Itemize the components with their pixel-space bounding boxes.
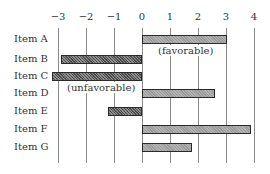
category-label: Item E xyxy=(14,106,48,116)
x-tick-label: 4 xyxy=(251,11,257,22)
x-tick-label: −2 xyxy=(79,11,94,22)
bar-item-c xyxy=(52,72,142,81)
gridline xyxy=(254,28,255,163)
category-label: Item D xyxy=(14,88,49,98)
gridline xyxy=(226,28,227,163)
x-tick-label: −1 xyxy=(107,11,122,22)
bar-chart: −3−2−101234 Item AItem BItem CItem DItem… xyxy=(0,0,270,174)
gridline xyxy=(114,28,115,163)
unfavorable-annotation: (unfavorable) xyxy=(66,82,136,93)
category-label: Item F xyxy=(14,124,48,134)
x-tick-label: −3 xyxy=(51,11,66,22)
gridline xyxy=(86,28,87,163)
bar-item-b xyxy=(61,55,142,64)
x-tick-label: 2 xyxy=(195,11,201,22)
bar-item-a xyxy=(142,35,227,44)
category-label: Item B xyxy=(14,54,48,64)
bar-item-d xyxy=(142,89,215,98)
category-label: Item G xyxy=(14,142,49,152)
gridline xyxy=(58,28,59,163)
bar-item-g xyxy=(142,143,192,152)
x-tick-label: 1 xyxy=(167,11,173,22)
category-label: Item C xyxy=(14,71,48,81)
bar-item-e xyxy=(108,107,142,116)
x-tick-label: 0 xyxy=(139,11,145,22)
bar-item-f xyxy=(142,125,251,134)
category-label: Item A xyxy=(14,34,48,44)
favorable-annotation: (favorable) xyxy=(157,45,214,56)
x-tick-label: 3 xyxy=(223,11,229,22)
